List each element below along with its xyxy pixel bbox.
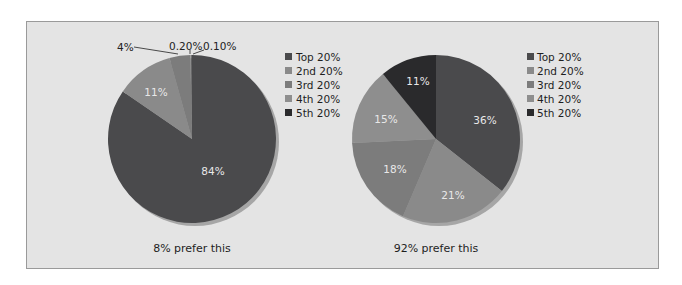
slice-label-top: 84% [201,165,224,177]
legend-label: 5th 20% [537,107,581,119]
legend-item-top: Top 20% [285,51,340,63]
slice-label-2nd: 21% [441,189,464,201]
legend-swatch [527,109,534,116]
legend-label: 3rd 20% [296,79,340,91]
legend-item-5th: 5th 20% [527,107,581,119]
legend-item-3rd: 3rd 20% [527,79,581,91]
legend-swatch [285,67,292,74]
legend-item-top: Top 20% [527,51,581,63]
pie-chart-left: 84% 11% 4% 0.20% 0.10% 8% prefer this [108,40,279,255]
legend-swatch [285,53,292,60]
legend-item-5th: 5th 20% [285,107,340,119]
slice-callouts: 4% 0.20% 0.10% [117,40,236,54]
legend-label: Top 20% [295,51,340,63]
legend-label: 2nd 20% [537,65,584,77]
slice-label-3rd: 4% [117,41,134,53]
slice-label-5th: 0.10% [203,40,236,52]
slice-label-2nd: 11% [144,86,167,98]
legend-swatch [527,81,534,88]
legend-label: 4th 20% [537,93,581,105]
pie-slices [352,55,520,223]
legend-swatch [285,109,292,116]
slice-label-5th: 11% [406,75,429,87]
legend-label: 3rd 20% [537,79,581,91]
legend-swatch [527,53,534,60]
figure: 84% 11% 4% 0.20% 0.10% 8% prefer this To… [0,0,682,285]
legend-item-4th: 4th 20% [527,93,581,105]
chart-caption-right: 92% prefer this [394,242,479,255]
legend-right: Top 20% 2nd 20% 3rd 20% 4th 20% 5th 20% [527,51,584,119]
pie-charts-canvas: 84% 11% 4% 0.20% 0.10% 8% prefer this To… [0,0,682,285]
slice-label-4th: 15% [374,113,397,125]
legend-label: 5th 20% [296,107,340,119]
legend-swatch [285,81,292,88]
legend-swatch [527,67,534,74]
slice-label-top: 36% [473,114,496,126]
legend-item-4th: 4th 20% [285,93,340,105]
slice-label-3rd: 18% [383,163,406,175]
pie-slices [108,55,276,223]
legend-item-3rd: 3rd 20% [285,79,340,91]
legend-label: 4th 20% [296,93,340,105]
legend-label: Top 20% [536,51,581,63]
slice-label-4th: 0.20% [169,40,202,52]
pie-chart-right: 36% 21% 18% 15% 11% 92% prefer this [352,55,523,255]
chart-caption-left: 8% prefer this [153,242,231,255]
legend-label: 2nd 20% [296,65,343,77]
legend-left: Top 20% 2nd 20% 3rd 20% 4th 20% 5th 20% [285,51,343,119]
legend-item-2nd: 2nd 20% [527,65,584,77]
legend-item-2nd: 2nd 20% [285,65,343,77]
legend-swatch [285,95,292,102]
legend-swatch [527,95,534,102]
